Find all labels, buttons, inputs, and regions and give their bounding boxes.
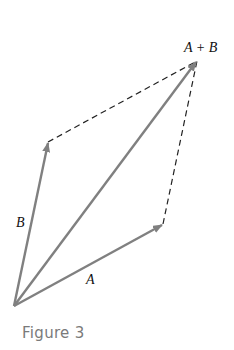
dashed-side-b-to-sum xyxy=(48,61,197,142)
vector-sum-arrow xyxy=(14,62,196,306)
label-a: A xyxy=(86,272,95,288)
vector-addition-figure: A + B B A Figure 3 xyxy=(0,0,234,350)
label-b: B xyxy=(16,215,25,231)
figure-caption: Figure 3 xyxy=(22,324,85,342)
vector-a-arrow xyxy=(14,225,162,306)
label-sum: A + B xyxy=(184,40,217,56)
